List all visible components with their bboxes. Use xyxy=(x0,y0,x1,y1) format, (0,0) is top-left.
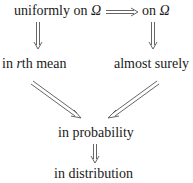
arrow-probability-to-distribution xyxy=(91,144,99,163)
arrows-layer xyxy=(0,0,193,183)
arrow-pointwise-to-almost-surely xyxy=(149,22,157,49)
arrow-almost-surely-to-probability xyxy=(108,81,159,118)
arrow-rth-mean-to-probability xyxy=(31,81,81,118)
arrow-uniform-to-rth-mean xyxy=(34,22,42,49)
arrow-uniform-to-pointwise xyxy=(106,8,138,16)
